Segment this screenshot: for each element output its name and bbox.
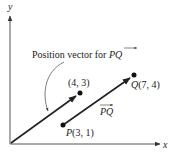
point-p-coords: (3, 1) [72,127,94,139]
point-q-label: Q(7, 4) [131,79,160,91]
annotation-prefix: Position vector for [32,49,109,60]
annotation-pointer [45,62,64,111]
point-q-coords: (7, 4) [138,79,160,91]
position-tip-dot [78,91,83,96]
point-p-label: P(3, 1) [65,127,94,139]
position-tip-label: (4, 3) [68,77,90,89]
diagram-canvas: y x (4, 3) P(3, 1) Q(7, 4) PQ Position v… [0,0,174,154]
point-p-letter: P [65,127,72,138]
annotation-vector: PQ [108,49,123,60]
point-p-dot [61,123,66,128]
annotation-text: Position vector for PQ [32,49,123,60]
x-axis-label: x [162,139,168,150]
y-axis-label: y [7,1,13,12]
vector-diagram: y x (4, 3) P(3, 1) Q(7, 4) PQ Position v… [0,0,174,154]
vector-pq-label: PQ [99,106,114,117]
point-q-dot [132,73,137,78]
